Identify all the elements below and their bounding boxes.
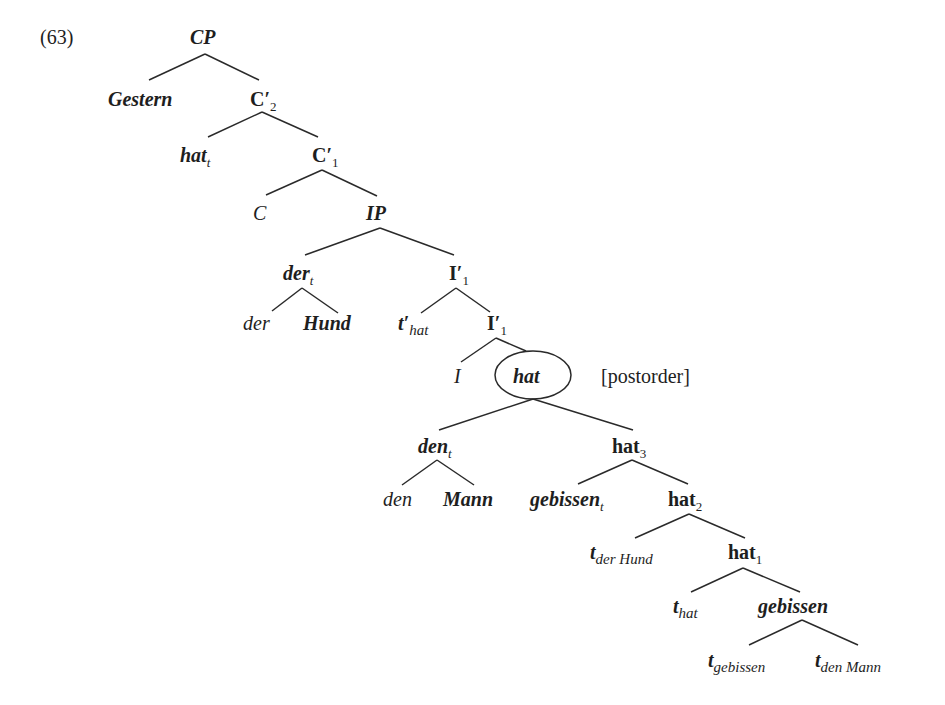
node-label: gebissen bbox=[758, 595, 828, 617]
node-der-t: dert bbox=[283, 263, 313, 283]
node-subscript: t bbox=[207, 155, 211, 170]
edge-i1-tprime bbox=[421, 288, 456, 313]
edge-dert-der bbox=[272, 288, 302, 311]
edge-hat-hat3 bbox=[533, 399, 633, 430]
edge-hat1-that bbox=[691, 568, 743, 592]
edge-i1lower-i bbox=[461, 338, 496, 362]
edge-hat2-hat1 bbox=[689, 514, 745, 538]
node-t-prime-hat: t′hat bbox=[398, 313, 428, 333]
edge-c2-hatt bbox=[208, 112, 262, 137]
edge-hat-dent bbox=[439, 399, 533, 430]
node-i-bar-1-upper: I′1 bbox=[449, 263, 469, 283]
edge-c1-ip bbox=[322, 170, 377, 196]
node-label: t bbox=[673, 595, 679, 617]
node-subscript: 2 bbox=[270, 99, 277, 114]
node-label: t bbox=[708, 649, 714, 671]
edge-dent-mann bbox=[437, 460, 474, 485]
node-hat-3: hat3 bbox=[612, 436, 646, 456]
node-label: C′ bbox=[312, 144, 332, 166]
node-subscript: der Hund bbox=[596, 551, 653, 567]
node-hat-t: hatt bbox=[180, 145, 210, 165]
node-i: I bbox=[454, 366, 461, 386]
node-label: C bbox=[253, 202, 266, 224]
node-subscript: 2 bbox=[696, 499, 703, 514]
node-den: den bbox=[383, 489, 412, 509]
edge-ip-dert bbox=[305, 228, 380, 255]
edge-cp-c2 bbox=[205, 54, 259, 80]
node-label: IP bbox=[366, 202, 386, 224]
node-subscript: t bbox=[448, 446, 452, 461]
postorder-annotation: [postorder] bbox=[601, 366, 690, 386]
node-label: CP bbox=[190, 26, 216, 48]
node-label: C′ bbox=[250, 88, 270, 110]
node-ip: IP bbox=[366, 203, 386, 223]
node-c-bar-1: C′1 bbox=[312, 145, 339, 165]
node-label: I′ bbox=[449, 262, 462, 284]
node-label: t bbox=[815, 649, 821, 671]
node-hat-1: hat1 bbox=[728, 542, 762, 562]
node-label: der bbox=[243, 312, 270, 334]
node-hat-circled: hat bbox=[513, 366, 540, 386]
node-mann: Mann bbox=[443, 489, 493, 509]
node-label: I bbox=[454, 365, 461, 387]
node-t-den-mann: tden Mann bbox=[815, 650, 881, 670]
node-label: Mann bbox=[443, 488, 493, 510]
node-subscript: 1 bbox=[500, 323, 507, 338]
edge-hat3-gebissent bbox=[578, 460, 632, 484]
node-der: der bbox=[243, 313, 270, 333]
node-subscript: t bbox=[310, 273, 314, 288]
node-i-bar-1-lower: I′1 bbox=[487, 313, 507, 333]
node-subscript: 3 bbox=[640, 446, 647, 461]
node-gestern: Gestern bbox=[108, 89, 172, 109]
node-label: den bbox=[418, 435, 448, 457]
edge-cp-gestern bbox=[149, 54, 205, 80]
edge-dert-hund bbox=[302, 288, 338, 313]
edge-hat2-tderhund bbox=[635, 514, 689, 538]
node-subscript: den Mann bbox=[821, 659, 881, 675]
example-number: (63) bbox=[40, 27, 73, 47]
node-label: hat bbox=[513, 365, 540, 387]
node-label: Gestern bbox=[108, 88, 172, 110]
node-c-bar-2: C′2 bbox=[250, 89, 277, 109]
edge-i1lower-hat bbox=[496, 338, 526, 351]
node-c: C bbox=[253, 203, 266, 223]
node-label: t bbox=[590, 541, 596, 563]
node-subscript: hat bbox=[679, 605, 698, 621]
edge-i1-i1lower bbox=[456, 288, 490, 312]
node-label: Hund bbox=[303, 312, 351, 334]
edge-c2-c1 bbox=[262, 112, 318, 137]
edge-ip-i1 bbox=[380, 228, 454, 255]
node-subscript: 1 bbox=[756, 552, 763, 567]
node-subscript: 1 bbox=[462, 273, 469, 288]
node-label: hat bbox=[612, 435, 640, 457]
edge-hat3-hat2 bbox=[632, 460, 688, 484]
node-label: I′ bbox=[487, 312, 500, 334]
node-subscript: t bbox=[600, 499, 604, 514]
edge-c1-c bbox=[266, 170, 322, 195]
edge-dent-den bbox=[402, 460, 437, 485]
node-t-der-hund: tder Hund bbox=[590, 542, 653, 562]
node-label: der bbox=[283, 262, 310, 284]
node-gebissen: gebissen bbox=[758, 596, 828, 616]
edge-hat1-gebissen bbox=[743, 568, 800, 592]
node-hat-2: hat2 bbox=[668, 489, 702, 509]
edge-gebissen-tgebissen bbox=[749, 620, 802, 645]
node-subscript: hat bbox=[409, 322, 428, 338]
node-cp: CP bbox=[190, 27, 216, 47]
node-hund: Hund bbox=[303, 313, 351, 333]
node-label: t′ bbox=[398, 312, 409, 334]
node-t-hat: that bbox=[673, 596, 698, 616]
node-label: den bbox=[383, 488, 412, 510]
node-gebissen-t: gebissent bbox=[530, 489, 604, 509]
node-t-gebissen: tgebissen bbox=[708, 650, 765, 670]
node-subscript: 1 bbox=[332, 155, 339, 170]
node-label: hat bbox=[668, 488, 696, 510]
node-label: gebissen bbox=[530, 488, 600, 510]
node-label: hat bbox=[180, 144, 207, 166]
edge-gebissen-tdenmann bbox=[802, 620, 858, 645]
node-subscript: gebissen bbox=[714, 659, 766, 675]
node-den-t: dent bbox=[418, 436, 452, 456]
node-label: hat bbox=[728, 541, 756, 563]
